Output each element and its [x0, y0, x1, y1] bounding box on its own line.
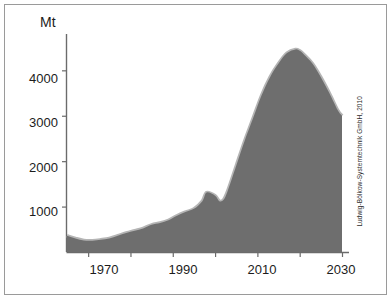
area-chart-plot [0, 0, 391, 299]
area-series-fill [67, 49, 342, 252]
chart-figure: Mt 4000 3000 2000 1000 1970 1990 2010 20… [0, 0, 391, 299]
figure-credit-text: Ludwig-Bölkow-Systemtechnik GmbH, 2010 [356, 96, 363, 227]
